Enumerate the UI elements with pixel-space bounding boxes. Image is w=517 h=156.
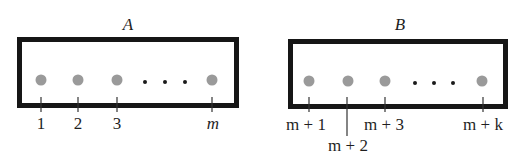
partition-diagram: A 1 2 3 m B [0, 0, 517, 156]
ellipsis-dots [143, 80, 187, 84]
element-dot [73, 75, 84, 86]
element-dot [380, 76, 391, 87]
element-label: m + 3 [364, 115, 404, 134]
element-dot [304, 76, 315, 87]
element-label: m + 1 [286, 115, 326, 134]
box-b: B m + 1 m + 2 m + 3 m + k [286, 15, 505, 155]
box-a-frame [20, 40, 237, 106]
element-dot [343, 76, 354, 87]
element-label: 1 [37, 114, 46, 133]
element-label: m [207, 114, 219, 133]
element-dot [112, 75, 123, 86]
element-label: 2 [74, 114, 83, 133]
element-dot [207, 75, 218, 86]
element-dot [36, 75, 47, 86]
element-label: 3 [113, 114, 122, 133]
element-label: m + 2 [328, 136, 368, 155]
ellipsis-dots [413, 81, 455, 85]
box-a-title: A [122, 15, 134, 34]
box-b-title: B [395, 15, 406, 34]
element-label: m + k [463, 115, 503, 134]
box-b-frame [291, 42, 506, 107]
box-a: A 1 2 3 m [20, 15, 237, 133]
element-dot [477, 76, 488, 87]
